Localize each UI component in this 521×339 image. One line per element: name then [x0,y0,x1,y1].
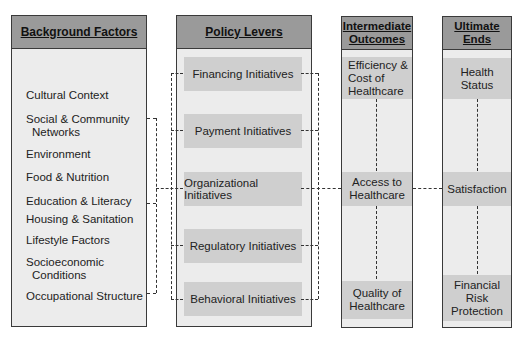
bg-item-housing-sanitation: Housing & Sanitation [26,213,133,226]
bg-item-food-nutrition: Food & Nutrition [26,171,109,184]
ultimate-ends-column: Ultimate Ends Health Status Satisfaction… [442,16,512,328]
outcome-access: Access to Healthcare [342,172,412,206]
connector [376,99,377,171]
connector [171,245,183,246]
end-satisfaction: Satisfaction [443,172,511,206]
lever-payment: Payment Initiatives [184,114,302,148]
end-financial-risk-protection: Financial Risk Protection [443,275,511,321]
bg-item-environment: Environment [26,148,91,161]
connector [301,73,318,74]
connector [156,188,183,189]
bg-item-socioeconomic: SocioeconomicConditions [26,256,104,282]
lever-financing: Financing Initiatives [184,57,302,91]
bg-item-cultural-context: Cultural Context [26,89,108,102]
connector [171,73,172,299]
connector [171,73,183,74]
bg-item-lifestyle-factors: Lifestyle Factors [26,234,110,247]
bg-item-social-community: Social & CommunityNetworks [26,113,130,139]
connector [301,299,318,300]
ultimate-ends-header: Ultimate Ends [443,17,511,50]
connector [171,130,183,131]
policy-levers-column: Policy Levers Financing Initiatives Paym… [176,15,312,327]
connector [318,73,319,299]
connector [301,245,318,246]
connector [301,130,318,131]
policy-levers-title: Policy Levers [205,26,282,39]
background-factors-header: Background Factors [12,16,146,49]
end-health-status: Health Status [443,58,511,99]
background-factors-title: Background Factors [21,26,138,39]
connector [413,188,442,189]
bg-item-education-literacy: Education & Literacy [26,195,131,208]
intermediate-outcomes-header: Intermediate Outcomes [342,17,412,50]
connector [147,293,156,294]
connector [376,206,377,279]
policy-levers-header: Policy Levers [177,16,311,49]
outcome-efficiency-cost: Efficiency & Cost of Healthcare [342,57,412,99]
connector [477,206,478,274]
connector [171,299,183,300]
connector [301,188,341,189]
lever-organizational: Organizational Initiatives [184,172,302,206]
outcome-quality: Quality of Healthcare [342,281,412,319]
intermediate-outcomes-column: Intermediate Outcomes Efficiency & Cost … [341,16,413,328]
connector [477,99,478,171]
connector [147,118,156,119]
background-factors-column: Background Factors Cultural Context Soci… [11,15,147,327]
connector [156,118,157,293]
lever-behavioral: Behavioral Initiatives [184,282,302,316]
bg-item-occupational-structure: Occupational Structure [26,290,143,303]
connector [147,203,156,204]
lever-regulatory: Regulatory Initiatives [184,229,302,263]
